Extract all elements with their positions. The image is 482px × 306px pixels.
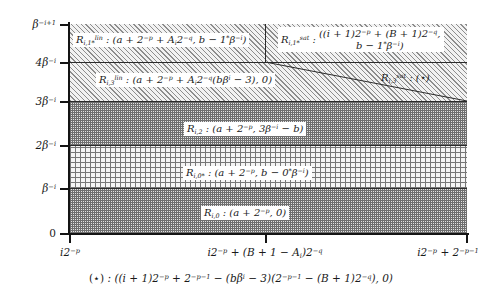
y-label-4beta: 4β−i — [0, 56, 56, 68]
x-label-right: i2−p + 2−p−1 — [417, 246, 479, 258]
region-partition-figure: Ri,1*lin : (a + 2−p + Ai2−q, b − 1*β−i) … — [0, 0, 482, 306]
region-label-r-i-0: Ri,0 : (a + 2−p, 0) — [201, 206, 289, 220]
x-tick-right — [466, 235, 468, 243]
y-tick-beta — [60, 188, 70, 190]
region-label-r-i-1star-sat: Ri,1*sat : ((i + 1)2−p + (B + 1)2−q, b −… — [278, 27, 444, 52]
x-label-i2p: i2−p — [60, 246, 80, 258]
y-tick-2beta — [60, 145, 70, 147]
y-label-zero: 0 — [0, 227, 56, 239]
x-label-mid: i2−p + (B + 1 − Ai)2−q — [207, 246, 322, 258]
y-tick-4beta — [60, 62, 70, 64]
star-definition-caption: (⋆) : ((i + 1)2−p + 2−p−1 − (bβi − 3)(2−… — [0, 272, 482, 284]
y-tick-beta-i-plus-1 — [60, 24, 70, 26]
region-label-r-i-1star-lin: Ri,1*lin : (a + 2−p + Ai2−q, b − 1*β−i) — [73, 33, 249, 47]
y-label-3beta: 3β−i — [0, 95, 56, 107]
x-tick-i2p — [69, 235, 71, 243]
region-label-r-i-2: Ri,2 : (a + 2−p, 3β−i − b) — [184, 122, 306, 136]
region-label-r-i-3-sat: Ri,3sat : (⋆) — [378, 71, 433, 85]
y-label-beta-i-plus-1: β−i+1 — [0, 18, 56, 30]
x-axis — [68, 233, 469, 235]
y-label-beta: β−i — [0, 182, 56, 194]
region-label-r-i-0star: Ri,0* : (a + 2−p, b − 0*β−i) — [183, 166, 312, 180]
y-tick-3beta — [60, 101, 70, 103]
region-label-r-i-3-lin: Ri,3lin : (a + 2−p + Ai2−q(bβi − 3), 0) — [96, 73, 275, 87]
y-label-2beta: 2β−i — [0, 139, 56, 151]
y-axis — [68, 22, 70, 235]
x-tick-mid — [265, 235, 267, 243]
